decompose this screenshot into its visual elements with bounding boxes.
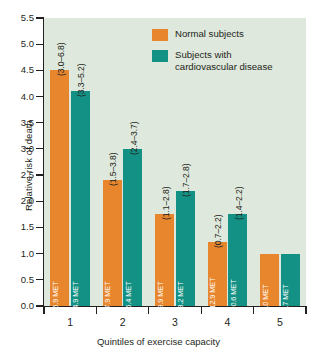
confidence-interval-label: (0.7–2.2) [213, 215, 223, 249]
bar-met-label: 1.0–5.9 MET [51, 281, 60, 322]
bar-normal-q1[interactable]: 1.0–5.9 MET [50, 70, 69, 306]
y-tick [36, 174, 44, 175]
bar-met-label: 6.0–7.9 MET [103, 281, 112, 322]
bar-normal-q2[interactable]: 6.0–7.9 MET [103, 180, 122, 306]
confidence-interval-label: (1.1–2.8) [161, 187, 171, 221]
y-tick-label: 4.0 [0, 92, 34, 102]
confidence-interval-label: (2.4–3.7) [129, 121, 139, 155]
y-tick [36, 253, 44, 254]
legend-swatch-cvd-icon [152, 50, 168, 62]
bar-met-label: 8.3–10.6 MET [229, 279, 238, 324]
legend-swatch-normal-icon [152, 29, 168, 41]
y-tick-label: 3.5 [0, 118, 34, 128]
y-tick [36, 96, 44, 97]
y-tick [36, 279, 44, 280]
bar-cvd-q2[interactable]: 5.0–6.4 MET [123, 149, 142, 306]
x-tick [201, 307, 202, 314]
y-tick [36, 17, 44, 18]
y-tick [36, 70, 44, 71]
bar-normal-q5[interactable]: ≥13.0 MET [260, 254, 279, 306]
bar-met-label: 6.5–8.2 MET [176, 281, 185, 322]
legend-item-cvd: Subjects with cardiovascular disease [152, 49, 293, 72]
bar-normal-q3[interactable]: 8.0–9.9 MET [155, 214, 174, 306]
confidence-interval-label: (3.3–5.2) [76, 64, 86, 98]
chart-legend: Normal subjects Subjects with cardiovasc… [152, 28, 293, 80]
x-tick [305, 307, 306, 314]
confidence-interval-label: (1.5–3.8) [108, 153, 118, 187]
legend-label-normal: Normal subjects [175, 28, 244, 40]
y-tick-label: 0.0 [0, 301, 34, 311]
y-tick-label: 0.5 [0, 275, 34, 285]
y-tick-label: 4.5 [0, 65, 34, 75]
legend-label-cvd: Subjects with cardiovascular disease [175, 49, 293, 72]
bar-cvd-q1[interactable]: 1.0–4.9 MET [71, 91, 90, 306]
y-tick-label: 2.0 [0, 196, 34, 206]
y-tick [36, 227, 44, 228]
y-tick [36, 122, 44, 123]
y-tick-label: 5.0 [0, 39, 34, 49]
bar-cvd-q3[interactable]: 6.5–8.2 MET [176, 191, 195, 306]
y-tick-label: 1.5 [0, 222, 34, 232]
confidence-interval-label: (3.0–6.8) [56, 43, 66, 77]
bar-cvd-q4[interactable]: 8.3–10.6 MET [228, 214, 247, 306]
y-tick-label: 5.5 [0, 13, 34, 23]
y-tick [36, 148, 44, 149]
bar-normal-q4[interactable]: 10.0–12.9 MET [208, 242, 227, 306]
bar-cvd-q5[interactable]: ≥10.7 MET [281, 254, 300, 306]
x-tick [96, 307, 97, 314]
bar-met-label: 8.0–9.9 MET [156, 281, 165, 322]
x-axis-title: Quintiles of exercise capacity [0, 336, 317, 347]
bar-met-label: 1.0–4.9 MET [71, 281, 80, 322]
y-axis-line [43, 18, 44, 307]
y-tick-label: 2.5 [0, 170, 34, 180]
confidence-interval-label: (1.7–2.8) [181, 163, 191, 197]
y-tick-label: 1.0 [0, 249, 34, 259]
x-tick [43, 307, 44, 314]
bar-met-label: ≥10.7 MET [281, 284, 290, 319]
x-tick [148, 307, 149, 314]
y-tick [36, 201, 44, 202]
x-tick-label: 2 [108, 316, 138, 328]
y-tick-label: 3.0 [0, 144, 34, 154]
y-tick [36, 44, 44, 45]
confidence-interval-label: (1.4–2.2) [234, 187, 244, 221]
x-tick [253, 307, 254, 314]
chart-figure: Relative risk of death 0.00.51.01.52.02.… [0, 0, 317, 360]
bar-met-label: 10.0–12.9 MET [208, 277, 217, 326]
bar-met-label: 5.0–6.4 MET [124, 281, 133, 322]
legend-item-normal: Normal subjects [152, 28, 293, 41]
bar-met-label: ≥13.0 MET [261, 284, 270, 319]
